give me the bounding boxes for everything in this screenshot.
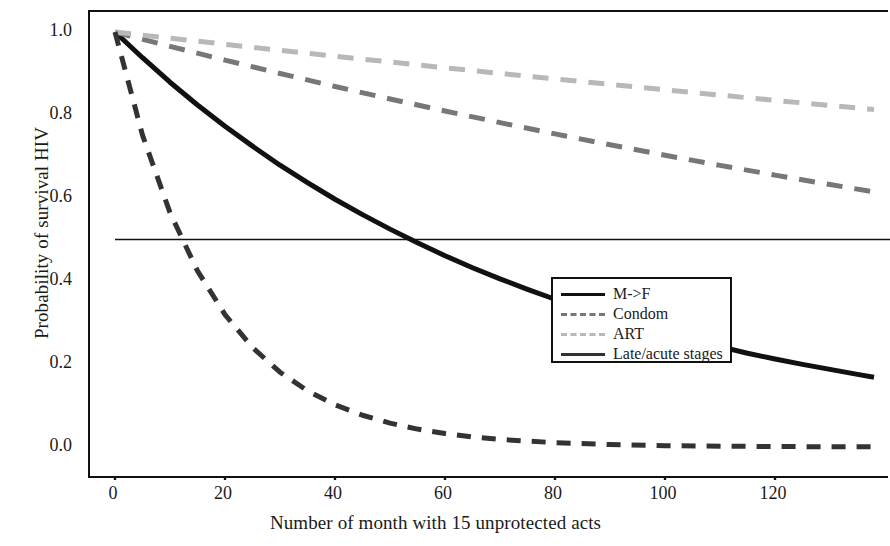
- y-axis-title: Probability of survival HIV: [31, 23, 53, 443]
- x-tick-label: 60: [413, 484, 473, 502]
- legend-item-label: Condom: [613, 306, 668, 322]
- legend-item[interactable]: ART: [553, 324, 730, 344]
- x-tick-label: 20: [193, 484, 253, 502]
- legend-item-label: M->F: [613, 286, 650, 302]
- series-line-m-f: [115, 32, 874, 377]
- x-tick-label: 0: [83, 484, 143, 502]
- x-tick-label: 40: [303, 484, 363, 502]
- legend-item[interactable]: Condom: [553, 304, 730, 324]
- x-tick-label: 80: [523, 484, 583, 502]
- x-tick-label: 120: [743, 484, 803, 502]
- series-line-art: [115, 32, 874, 110]
- x-tick-label: 100: [633, 484, 693, 502]
- legend-line-swatch-icon: [561, 328, 605, 340]
- legend-line-swatch-icon: [561, 348, 605, 360]
- legend-item[interactable]: Late/acute stages: [553, 344, 730, 364]
- plot-area: [88, 10, 888, 478]
- series-line-condom: [115, 32, 874, 192]
- plot-canvas: [90, 12, 890, 480]
- legend-item-label: Late/acute stages: [613, 346, 723, 362]
- x-axis-title: Number of month with 15 unprotected acts: [0, 512, 871, 534]
- legend-item-label: ART: [613, 326, 644, 342]
- legend-line-swatch-icon: [561, 288, 605, 300]
- legend-item[interactable]: M->F: [553, 284, 730, 304]
- chart-legend[interactable]: M->FCondomARTLate/acute stages: [551, 277, 732, 363]
- legend-line-swatch-icon: [561, 308, 605, 320]
